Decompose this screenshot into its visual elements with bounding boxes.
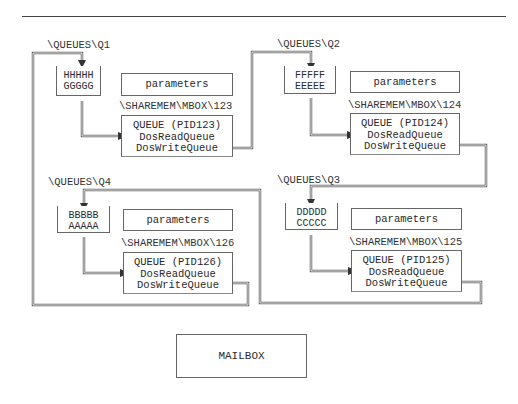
queue-process-box-pid123: QUEUE (PID123) DosReadQueue DosWriteQueu… [121, 115, 233, 157]
parameters-box-q3: parameters [351, 208, 462, 230]
queue-element: CCCCC [286, 218, 337, 229]
queue-element: EEEEE [285, 81, 335, 92]
queue-element: HHHHH [57, 70, 100, 81]
dos-write-queue: DosWriteQueue [351, 141, 459, 153]
queue-process-box-pid126: QUEUE (PID126) DosReadQueue DosWriteQueu… [123, 252, 233, 294]
queue-elements-box-q1: HHHHH GGGGG [56, 66, 101, 96]
dos-write-queue: DosWriteQueue [352, 278, 461, 290]
parameters-box-q1: parameters [121, 73, 233, 96]
queue-elements-box-q3: DDDDD CCCCC [285, 203, 338, 230]
mailbox-path-label-124: \SHAREMEM\MBOX\124 [348, 99, 461, 111]
queue-process-box-pid124: QUEUE (PID124) DosReadQueue DosWriteQueu… [350, 113, 460, 155]
queue-element: BBBBB [58, 210, 109, 221]
queue-owner: QUEUE (PID125) [352, 255, 461, 267]
queue-owner: QUEUE (PID123) [122, 120, 232, 132]
queue-elements-box-q2: FFFFF EEEEE [284, 66, 336, 94]
dos-write-queue: DosWriteQueue [124, 280, 232, 292]
parameters-box-q4: parameters [123, 209, 233, 231]
queue-elements-box-q4: BBBBB AAAAA [57, 206, 110, 233]
queue-process-box-pid125: QUEUE (PID125) DosReadQueue DosWriteQueu… [351, 250, 462, 292]
queue-owner: QUEUE (PID124) [351, 118, 459, 130]
queue-element: DDDDD [286, 207, 337, 218]
queue-element: AAAAA [58, 221, 109, 232]
parameters-box-q2: parameters [350, 71, 460, 93]
queue-path-label-q1: \QUEUES\Q1 [47, 39, 110, 51]
queue-path-label-q4: \QUEUES\Q4 [48, 176, 111, 188]
queue-path-label-q3: \QUEUES\Q3 [277, 174, 340, 186]
dos-write-queue: DosWriteQueue [122, 143, 232, 155]
queue-owner: QUEUE (PID126) [124, 257, 232, 269]
queue-element: FFFFF [285, 70, 335, 81]
mailbox-path-label-126: \SHAREMEM\MBOX\126 [121, 237, 234, 249]
mailbox-path-label-123: \SHAREMEM\MBOX\123 [119, 100, 232, 112]
queue-path-label-q2: \QUEUES\Q2 [277, 38, 340, 50]
mailbox-path-label-125: \SHAREMEM\MBOX\125 [349, 236, 462, 248]
mailbox-legend-box: MAILBOX [176, 334, 307, 378]
queue-element: GGGGG [57, 81, 100, 92]
